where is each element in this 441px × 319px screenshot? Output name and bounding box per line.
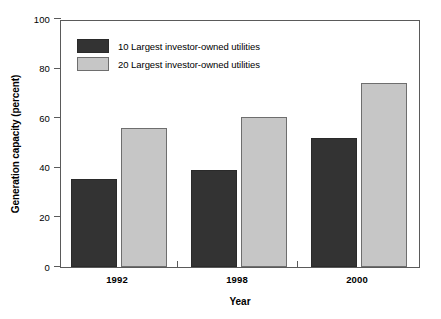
y-axis-tick-label: 60 [39,112,50,123]
legend-item: 20 Largest investor-owned utilities [77,55,260,73]
plot-area: 020406080100 199219982000 10 Largest inv… [60,20,420,268]
legend-item-label: 20 Largest investor-owned utilities [118,59,260,70]
y-axis-tick-label: 20 [39,211,50,222]
bar [191,170,237,267]
legend-item: 10 Largest investor-owned utilities [77,37,260,55]
y-axis-tick: 20 [54,216,61,217]
y-axis-tick-label: 0 [45,261,50,272]
x-axis-group-label: 1992 [106,274,128,285]
legend-swatch-icon [77,57,109,71]
y-axis-tick: 80 [54,68,61,69]
chart-legend: 10 Largest investor-owned utilities 20 L… [77,37,260,73]
x-axis-tick [297,261,298,268]
y-axis-tick: 40 [54,167,61,168]
legend-item-label: 10 Largest investor-owned utilities [118,41,260,52]
y-axis-tick: 100 [54,18,61,19]
y-axis-tick: 60 [54,117,61,118]
x-axis-tick [177,261,178,268]
legend-swatch-icon [77,39,109,53]
bar [121,128,167,267]
x-axis-group-label: 1998 [226,274,248,285]
y-axis-tick-label: 100 [34,13,50,24]
y-axis-tick-label: 40 [39,162,50,173]
y-axis-title: Generation capacity (percent) [10,20,24,268]
bar [71,179,117,267]
bar [311,138,357,267]
bar [241,117,287,267]
y-axis-tick-label: 80 [39,63,50,74]
bar-chart-figure: Generation capacity (percent) 0204060801… [0,0,441,319]
bar [361,83,407,267]
x-axis-group-label: 2000 [346,274,368,285]
x-axis-title: Year [60,296,420,307]
y-axis-tick: 0 [54,266,61,267]
